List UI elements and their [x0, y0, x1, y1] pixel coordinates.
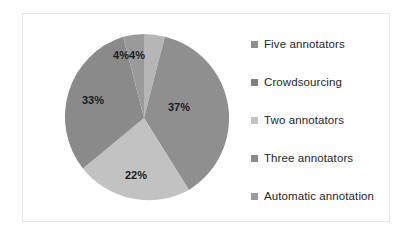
- square-swatch-icon: [251, 79, 258, 86]
- legend-item-label: Automatic annotation: [264, 190, 374, 202]
- legend-item-five-annotators[interactable]: Five annotators: [251, 36, 401, 52]
- square-swatch-icon: [251, 155, 258, 162]
- legend-item-label: Two annotators: [264, 114, 344, 126]
- pie-label-automatic-annotation: 4%: [113, 49, 129, 61]
- pie-chart-svg: 4% 37% 22% 33% 4%: [59, 30, 229, 206]
- legend-item-label: Five annotators: [264, 38, 345, 50]
- legend-item-label: Crowdsourcing: [264, 76, 342, 88]
- chart-frame: 4% 37% 22% 33% 4% Five annotators Crowds…: [22, 13, 390, 222]
- pie-label-crowdsourcing: 22%: [125, 169, 147, 181]
- square-swatch-icon: [251, 41, 258, 48]
- pie-label-two-annotators: 33%: [82, 94, 104, 106]
- legend-item-two-annotators[interactable]: Two annotators: [251, 112, 401, 128]
- chart-legend: Five annotators Crowdsourcing Two annota…: [251, 36, 401, 204]
- legend-item-label: Three annotators: [264, 152, 353, 164]
- legend-item-automatic-annotation[interactable]: Automatic annotation: [251, 188, 401, 204]
- legend-item-three-annotators[interactable]: Three annotators: [251, 150, 401, 166]
- pie-label-three-annotators: 4%: [129, 49, 145, 61]
- square-swatch-icon: [251, 117, 258, 124]
- square-swatch-icon: [251, 193, 258, 200]
- pie-chart: 4% 37% 22% 33% 4%: [59, 30, 229, 206]
- pie-label-five-annotators: 37%: [168, 101, 190, 113]
- legend-item-crowdsourcing[interactable]: Crowdsourcing: [251, 74, 401, 90]
